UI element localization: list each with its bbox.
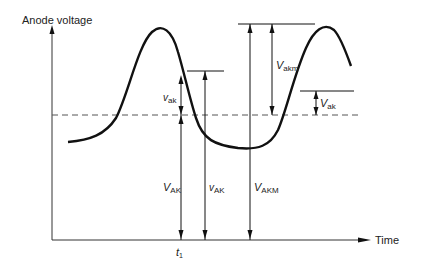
v-ak-down-arrow-icon (179, 106, 184, 115)
v-AK-bottom-arrow-icon (203, 230, 208, 239)
V-AK-bottom-arrow-icon (179, 230, 184, 239)
V-AKM-bottom-arrow-icon (248, 230, 253, 239)
V-ak-top-arrow-icon (314, 91, 319, 99)
label-V-ak-right: Vak (320, 97, 337, 111)
y-axis-label: Anode voltage (22, 14, 92, 26)
label-v-AK: vAK (209, 182, 225, 195)
V-AKM-top-arrow-icon (248, 24, 253, 33)
x-axis-arrow-icon (358, 238, 371, 243)
x-axis-label: Time (375, 234, 399, 246)
label-V-AK: VAK (163, 181, 182, 195)
V-akm-top-arrow-icon (270, 24, 275, 33)
v-ak-up-arrow-icon (179, 75, 184, 84)
y-axis-arrow-icon (50, 25, 55, 34)
anode-voltage-curve (68, 27, 351, 149)
V-akm-bottom-arrow-icon (270, 106, 275, 115)
V-AK-top-arrow-icon (179, 115, 184, 124)
v-AK-top-arrow-icon (203, 71, 208, 80)
label-V-akm: Vakm (276, 59, 299, 73)
label-V-AKM: VAKM (254, 181, 279, 195)
anode-voltage-diagram: Anode voltage Time vak VAK vAK VAKM Vakm… (0, 0, 427, 268)
time-marker-t1: t1 (176, 246, 183, 259)
V-ak-bottom-arrow-icon (314, 107, 319, 115)
label-v-ak-left: vak (163, 92, 177, 105)
